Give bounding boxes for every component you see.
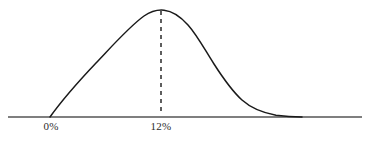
density-curve	[50, 10, 302, 117]
x-tick-label-twelve: 12%	[143, 121, 179, 132]
x-tick-label-zero: 0%	[35, 121, 67, 132]
distribution-chart-figure: 0% 12%	[0, 0, 370, 141]
